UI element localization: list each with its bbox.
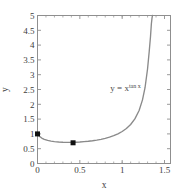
x-tick-label: 1.5: [159, 165, 171, 175]
minimum-marker: [71, 140, 76, 145]
x-axis-title: x: [102, 180, 107, 190]
y-tick-label: 2.5: [23, 85, 35, 95]
y-tick-label: 3.5: [23, 55, 35, 65]
equation-base: y = x: [110, 83, 129, 93]
y-tick-label: 4.5: [23, 26, 35, 36]
y-tick-label: 3: [30, 70, 35, 80]
y-tick-label: 1.5: [23, 114, 35, 124]
y-axis-tick-labels: 00.511.522.533.544.55: [23, 11, 35, 169]
y-tick-label: 4: [30, 40, 35, 50]
y-tick-label: 0.5: [23, 144, 35, 154]
y-tick-label: 1: [30, 129, 35, 139]
y-axis-title: y: [0, 87, 10, 92]
x-tick-label: 0.5: [74, 165, 86, 175]
plot-canvas: 00.511.5 00.511.522.533.544.55 y = xtan …: [0, 0, 179, 193]
x-tick-label: 0: [35, 165, 40, 175]
y-tick-label: 5: [30, 11, 35, 21]
equation-exponent: tan x: [129, 83, 141, 89]
y-tick-label: 2: [30, 100, 35, 110]
figure-container: 00.511.5 00.511.522.533.544.55 y = xtan …: [0, 0, 179, 193]
y-tick-label: 0: [30, 159, 35, 169]
x-tick-label: 1: [120, 165, 125, 175]
endpoint-marker: [35, 131, 40, 136]
